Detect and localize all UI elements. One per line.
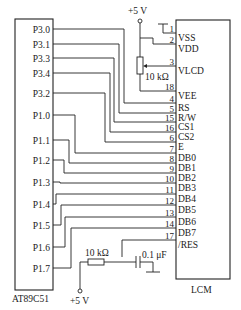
lcm-pin-label: DB1 <box>178 163 196 173</box>
mcu-pin-label: P3.1 <box>33 40 50 50</box>
reset-resistor-label: 10 kΩ <box>85 248 109 258</box>
lcm-pin-number: 6 <box>170 133 175 143</box>
resistor-icon <box>88 259 104 265</box>
lcm-block: LCM 1VSS2VDD3VLCD18VEE4RS5R/W15CS116CS26… <box>165 20 230 295</box>
signal-wire <box>53 93 176 142</box>
lcm-pin-label: VDD <box>178 44 199 54</box>
lcm-pin-number: 11 <box>165 185 174 195</box>
potentiometer-label: 10 kΩ <box>145 72 169 82</box>
mcu-pin-label: P1.2 <box>33 156 50 166</box>
mcu-pin-label: P3.3 <box>33 54 50 64</box>
lcm-pin-label: DB5 <box>178 205 196 215</box>
capacitor-icon <box>136 256 140 268</box>
lcm-pin-number: 4 <box>170 94 175 104</box>
lcm-pin-label: DB4 <box>178 194 196 204</box>
bottom-supply-label: +5 V <box>70 296 89 306</box>
lcm-pin-label: DB7 <box>178 228 196 238</box>
lcm-pin-label: VLCD <box>178 66 204 76</box>
reset-capacitor-label: 0.1 μF <box>142 250 167 260</box>
mcu-pin-label: P1.5 <box>33 221 50 231</box>
lcm-pin-number: 12 <box>165 196 174 206</box>
signal-wires <box>53 29 176 268</box>
mcu-pin-label: P1.4 <box>33 200 50 210</box>
signal-wire <box>53 58 176 122</box>
signal-wire <box>53 140 176 163</box>
lcm-pin-label: CS2 <box>178 132 195 142</box>
lcm-pin-label: E <box>178 142 184 152</box>
lcm-pin-number: 1 <box>170 24 175 34</box>
lcm-pin-number: 15 <box>165 113 175 123</box>
lcm-pin-number: 10 <box>165 174 175 184</box>
lcm-pin-number: 17 <box>165 231 175 241</box>
signal-wire <box>53 182 176 183</box>
lcm-pin-number: 3 <box>170 57 175 67</box>
reset-network: 10 kΩ 0.1 μF +5 V <box>70 240 176 306</box>
power-network: +5 V 10 kΩ <box>128 6 176 91</box>
mcu-name: AT89C51 <box>12 294 49 304</box>
reset-supply-wire <box>80 262 88 289</box>
lcm-pin-number: 8 <box>170 154 175 164</box>
signal-wire <box>53 115 176 153</box>
mcu-pin-label: P1.7 <box>33 264 50 274</box>
signal-wire <box>53 194 176 204</box>
potentiometer-icon <box>137 57 143 74</box>
mcu-pin-label: P3.4 <box>33 69 50 79</box>
lcm-pin-label: DB6 <box>178 217 196 227</box>
lcm-pin-label: VEE <box>178 91 197 101</box>
lcm-pin-number: 14 <box>165 219 175 229</box>
lcm-pin-label: VSS <box>178 33 195 43</box>
lcm-pin-label: DB3 <box>178 183 196 193</box>
mcu-pin-label: P1.0 <box>33 111 50 121</box>
mcu-pin-label: P3.0 <box>33 25 50 35</box>
lcm-pin-number: 16 <box>165 123 175 133</box>
mcu-block: AT89C51 P3.0P3.1P3.3P3.4P3.2P1.0P1.1P1.2… <box>12 19 53 304</box>
wiper-arrow-icon <box>143 64 147 68</box>
lcm-pin-number: 18 <box>165 82 175 92</box>
lcm-pin-number: 9 <box>170 164 175 174</box>
signal-wire <box>53 160 176 173</box>
top-supply-label: +5 V <box>128 6 147 16</box>
lcm-pin-label: DB2 <box>178 173 196 183</box>
signal-wire <box>53 205 176 225</box>
mcu-pin-label: P1.3 <box>33 178 50 188</box>
mcu-pin-label: P1.6 <box>33 243 50 253</box>
lcm-pin-label: CS1 <box>178 122 195 132</box>
cap-ground-icon <box>140 262 160 272</box>
lcm-interface-schematic: AT89C51 P3.0P3.1P3.3P3.4P3.2P1.0P1.1P1.2… <box>0 0 241 310</box>
supply-terminal-icon <box>78 289 82 293</box>
lcm-pin-label: /RES <box>178 240 198 250</box>
lcm-pin-label: RS <box>178 103 190 113</box>
mcu-pin-label: P3.2 <box>33 89 50 99</box>
supply-terminal-icon <box>138 19 142 23</box>
lcm-name: LCM <box>191 285 212 295</box>
mcu-pin-label: P1.1 <box>33 136 50 146</box>
lcm-pin-label: DB0 <box>178 153 196 163</box>
lcm-pin-number: 13 <box>165 208 175 218</box>
lcm-pin-number: 7 <box>170 144 175 154</box>
lcm-pin-number: 2 <box>170 35 175 45</box>
